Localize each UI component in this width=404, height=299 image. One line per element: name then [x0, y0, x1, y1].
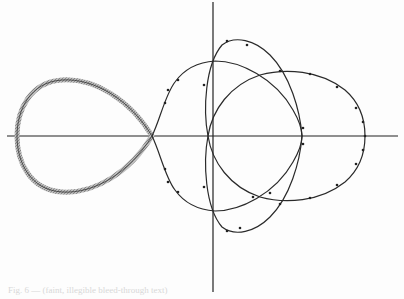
figure-diagram [0, 0, 404, 299]
figure-caption: Fig. 6 — (faint, illegible bleed-through… [8, 285, 167, 295]
